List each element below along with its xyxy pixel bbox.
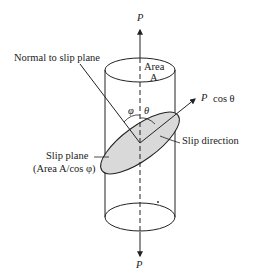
slip-plane-area-label: (Area A/cos φ) bbox=[33, 164, 96, 175]
area-label-line2: A bbox=[150, 73, 158, 84]
phi-label: φ bbox=[128, 106, 134, 117]
force-component-cos: cos θ bbox=[213, 94, 235, 105]
area-label-line1: Area bbox=[144, 62, 164, 73]
slip-plane-label: Slip plane bbox=[46, 151, 88, 162]
normal-label: Normal to slip plane bbox=[14, 53, 100, 64]
force-label-bottom: P bbox=[136, 260, 142, 271]
force-component-p: P bbox=[201, 93, 207, 104]
slip-direction-label: Slip direction bbox=[182, 136, 239, 147]
force-label-top: P bbox=[137, 13, 143, 24]
diagram-canvas: P Normal to slip plane Area A φ θ P cos … bbox=[0, 0, 255, 280]
theta-label: θ bbox=[144, 106, 149, 117]
surface-dot bbox=[157, 201, 159, 203]
